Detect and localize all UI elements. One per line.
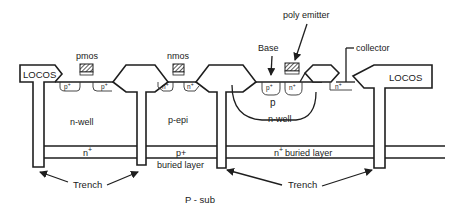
base-label: Base — [258, 43, 279, 53]
collector-label: collector — [356, 43, 390, 53]
locos-4 — [300, 65, 339, 82]
diagram-svg: LOCOS LOCOS pmos nmos Base poly emitter … — [0, 0, 449, 213]
trench-right-arrow-2-icon — [322, 170, 372, 186]
base-arrow-icon — [271, 56, 272, 75]
locos-left-label: LOCOS — [23, 69, 56, 80]
pmos-source-label: p+ — [64, 81, 71, 91]
pmos-label: pmos — [76, 51, 99, 61]
cross-section-diagram: LOCOS LOCOS pmos nmos Base poly emitter … — [0, 0, 449, 213]
nmos-gate-icon — [173, 64, 184, 72]
locos-trench-2 — [113, 65, 168, 165]
buried-right-label: n+buried layer — [274, 146, 332, 158]
nmos-label: nmos — [167, 51, 190, 61]
trench-right-arrow-1-icon — [227, 170, 282, 185]
collector-contact-label: n+ — [335, 81, 342, 90]
p-base-label: p — [270, 97, 276, 108]
pmos-drain-label: p+ — [101, 81, 108, 91]
poly-emitter-label: poly emitter — [283, 10, 330, 20]
pepi-label: p-epi — [168, 115, 188, 125]
locos-left — [20, 65, 62, 167]
buried-left-label: n+ — [83, 146, 92, 158]
trench-right-label: Trench — [288, 179, 317, 190]
trench-left-arrow-2-icon — [107, 172, 138, 185]
emitter-label: n+ — [289, 82, 296, 91]
substrate-label: P - sub — [185, 194, 215, 205]
poly-emitter-arrow-icon — [295, 24, 307, 60]
pmos-gate-icon — [80, 64, 93, 72]
nmos-drain-label: n+ — [187, 81, 194, 90]
trench-left-arrow-1-icon — [40, 172, 68, 182]
locos-right-label: LOCOS — [389, 72, 422, 83]
nwell-right-label: n-well — [268, 114, 292, 124]
base-contact-label: p+ — [266, 82, 273, 92]
nmos-source-label: n+ — [162, 81, 169, 90]
buried-mid-label: p+ — [176, 148, 186, 158]
trench-left-label: Trench — [73, 179, 102, 190]
buried-mid-sub-label: buried layer — [157, 160, 204, 170]
nwell-left-label: n-well — [70, 117, 94, 127]
poly-emitter-gate-icon — [285, 63, 299, 71]
